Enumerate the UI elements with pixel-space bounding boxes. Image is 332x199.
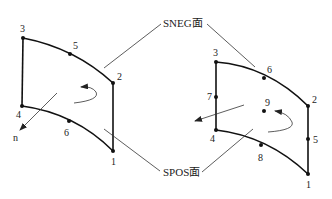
left-label-5: 5	[73, 40, 78, 51]
sneg-label: SNEG面	[163, 17, 203, 29]
left-label-1: 1	[111, 156, 116, 167]
left-node-6	[67, 119, 71, 123]
left-node-5	[68, 52, 72, 56]
rotation-arrow-icon	[74, 87, 97, 103]
left-node-3	[21, 36, 25, 40]
right-label-7: 7	[207, 91, 212, 102]
right-label-8: 8	[258, 152, 263, 163]
left-edge-left	[22, 38, 23, 106]
spos-callout: SPOS面	[104, 129, 253, 178]
left-label-2: 2	[117, 71, 122, 82]
right-label-9: 9	[265, 97, 270, 108]
right-node-3	[214, 60, 218, 64]
right-node-9	[262, 109, 266, 113]
direction-arrow-icon	[195, 105, 244, 121]
right-label-2: 2	[312, 94, 317, 105]
right-node-7	[214, 95, 218, 99]
sneg-callout: SNEG面	[104, 17, 255, 68]
left-label-3: 3	[20, 23, 25, 34]
right-node-4	[214, 128, 218, 132]
left-node-1	[111, 149, 115, 153]
sneg-leader-right	[207, 24, 255, 67]
right-node-8	[259, 143, 263, 147]
sneg-leader-left	[104, 24, 161, 68]
right-edge-top	[216, 62, 308, 106]
rotation-arrow-icon	[268, 111, 292, 132]
left-label-6: 6	[64, 127, 69, 138]
right-label-1: 1	[306, 179, 311, 190]
left-shell-element: 3 5 2 4 6 1 n	[13, 23, 122, 167]
right-label-6: 6	[267, 64, 272, 75]
left-node-4	[20, 104, 24, 108]
left-node-2	[111, 81, 115, 85]
right-label-4: 4	[210, 133, 215, 144]
left-edge-top	[23, 38, 113, 83]
left-label-4: 4	[16, 109, 21, 120]
right-node-6	[262, 76, 266, 80]
right-node-1	[306, 172, 310, 176]
right-label-3: 3	[213, 47, 218, 58]
normal-label: n	[13, 132, 18, 143]
right-node-5	[306, 137, 310, 141]
shell-element-diagram: 3 5 2 4 6 1 n 3 6 2 7 9 4 8 5 1	[0, 0, 332, 199]
normal-arrow-icon	[20, 93, 57, 130]
spos-label: SPOS面	[163, 166, 200, 178]
right-shell-element: 3 6 2 7 9 4 8 5 1	[195, 47, 318, 190]
right-label-5: 5	[313, 134, 318, 145]
right-node-2	[306, 104, 310, 108]
